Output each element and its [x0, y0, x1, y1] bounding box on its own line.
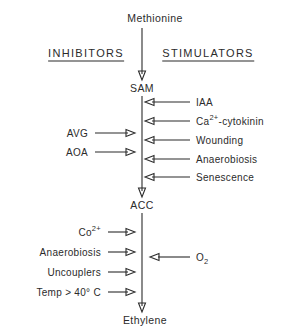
arrowhead-cofactor-oxygen: [150, 254, 159, 261]
pathway-node-methionine: Methionine: [127, 12, 182, 24]
inhibitor-label-cobalt: Co2+: [0, 227, 101, 238]
column-header-stimulators: STIMULATORS: [162, 47, 254, 62]
cofactor-label-oxygen: O2: [196, 252, 209, 263]
column-header-inhibitors: INHIBITORS: [48, 47, 124, 62]
inhibitor-cobalt-charge: 2+: [92, 224, 101, 233]
inhibitor-label-aoa: AOA: [0, 147, 88, 158]
stimulator-label-ca-cytokinin: Ca2+-cytokinin: [196, 116, 264, 127]
stimulator-label-wounding: Wounding: [196, 135, 243, 146]
cofactor-oxygen-base: O: [196, 252, 204, 263]
arrowhead-sam-to-acc: [139, 188, 146, 197]
arrowhead-stimulator-anaerobiosis: [145, 156, 154, 163]
cofactor-oxygen-count: 2: [204, 257, 208, 266]
stimulator-ca-charge: 2+: [209, 113, 218, 122]
inhibitor-label-avg: AVG: [0, 128, 88, 139]
arrowhead-stimulator-iaa: [145, 99, 154, 106]
arrowhead-methionine-to-sam: [139, 71, 146, 80]
pathway-node-acc: ACC: [130, 199, 153, 211]
inhibitor-cobalt-base: Co: [78, 227, 91, 238]
arrowhead-inhibitor-cobalt: [126, 229, 135, 236]
pathway-node-sam: SAM: [130, 82, 154, 94]
stimulator-label-anaerobiosis: Anaerobiosis: [196, 154, 257, 165]
stimulator-label-senescence: Senescence: [196, 172, 254, 183]
arrowhead-inhibitor-anaerobiosis: [126, 249, 135, 256]
ethylene-pathway-diagram: INHIBITORS STIMULATORS Methionine SAM AC…: [0, 0, 285, 333]
arrowhead-acc-to-ethylene: [139, 303, 146, 312]
arrowhead-inhibitor-aoa: [126, 149, 135, 156]
arrowhead-inhibitor-temperature: [126, 289, 135, 296]
inhibitor-label-anaerobiosis: Anaerobiosis: [0, 247, 101, 258]
pathway-node-ethylene: Ethylene: [123, 314, 167, 326]
stimulator-cytokinin-tail: -cytokinin: [219, 116, 264, 127]
arrowhead-stimulator-senescence: [145, 174, 154, 181]
stimulator-ca-base: Ca: [196, 116, 209, 127]
arrowhead-inhibitor-uncouplers: [126, 269, 135, 276]
arrowhead-stimulator-wounding: [145, 137, 154, 144]
inhibitor-label-temperature: Temp > 40° C: [0, 287, 101, 298]
arrowhead-stimulator-ca-cytokinin: [145, 118, 154, 125]
inhibitor-label-uncouplers: Uncouplers: [0, 267, 101, 278]
arrowhead-inhibitor-avg: [126, 130, 135, 137]
stimulator-label-iaa: IAA: [196, 97, 213, 108]
